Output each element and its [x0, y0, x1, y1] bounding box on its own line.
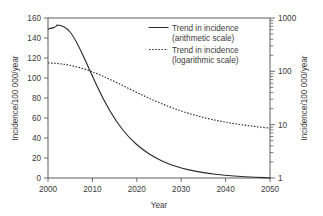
- y-left-tick-40: 40: [32, 134, 42, 143]
- y-axis-left-ticks: [44, 18, 48, 178]
- x-tick-2010: 2010: [83, 185, 102, 194]
- y-right-tick-1: 1: [278, 174, 283, 183]
- y-axis-right-ticks: [270, 18, 275, 178]
- y-axis-right-minor-ticks: [270, 20, 273, 162]
- x-axis-title: Year: [151, 201, 168, 210]
- y-axis-left-title: Incidence/100 000/year: [11, 55, 20, 140]
- y-left-tick-60: 60: [32, 114, 42, 123]
- y-left-tick-20: 20: [32, 154, 42, 163]
- legend-label-logarithmic-line1: Trend in incidence: [172, 46, 239, 55]
- plot-frame: [48, 18, 270, 178]
- y-axis-right-labels: 1 10 100 1000: [278, 14, 297, 183]
- y-left-tick-0: 0: [36, 174, 41, 183]
- legend-label-logarithmic-line2: (logarithmic scale): [172, 56, 239, 65]
- y-right-tick-100: 100: [278, 67, 292, 76]
- x-tick-2050: 2050: [261, 185, 280, 194]
- incidence-trend-chart: 0 20 40 60 80 100 120 140 160: [0, 0, 323, 216]
- y-left-tick-100: 100: [27, 74, 41, 83]
- y-right-tick-10: 10: [278, 121, 288, 130]
- x-axis-labels: 2000 2010 2020 2030 2040 2050: [39, 185, 280, 194]
- y-right-tick-1000: 1000: [278, 14, 297, 23]
- y-axis-right-title: Incidence/100 000/year: [300, 55, 309, 140]
- x-axis-ticks: [48, 178, 270, 182]
- x-tick-2040: 2040: [216, 185, 235, 194]
- chart-legend: Trend in incidence (arithmetic scale) Tr…: [149, 24, 239, 66]
- series-logarithmic-line: [48, 63, 270, 128]
- x-tick-2000: 2000: [39, 185, 58, 194]
- y-left-tick-80: 80: [32, 94, 42, 103]
- y-left-tick-140: 140: [27, 34, 41, 43]
- x-tick-2020: 2020: [128, 185, 147, 194]
- chart-page: 0 20 40 60 80 100 120 140 160: [0, 0, 323, 216]
- y-left-tick-120: 120: [27, 54, 41, 63]
- y-left-tick-160: 160: [27, 14, 41, 23]
- x-tick-2030: 2030: [172, 185, 191, 194]
- legend-label-arithmetic-line2: (arithmetic scale): [172, 34, 235, 43]
- legend-label-arithmetic-line1: Trend in incidence: [172, 24, 239, 33]
- y-axis-left-labels: 0 20 40 60 80 100 120 140 160: [27, 14, 41, 183]
